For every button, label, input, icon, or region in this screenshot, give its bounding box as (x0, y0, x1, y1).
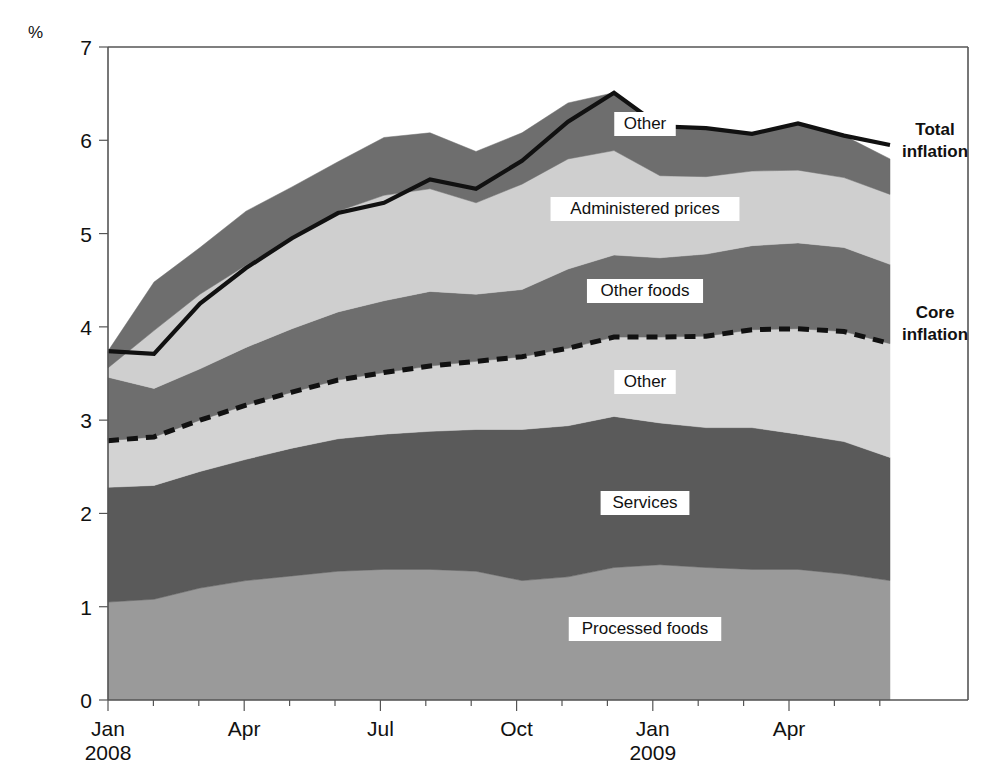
y-tick-label: 2 (80, 502, 92, 525)
inline-label-text: Administered prices (570, 199, 719, 218)
y-tick-label: 4 (80, 316, 92, 339)
inline-label-top-other: Other (614, 112, 676, 136)
y-tick-label: 7 (80, 36, 92, 59)
inline-label-processed-foods: Processed foods (569, 617, 722, 641)
inline-label-text: Other (624, 114, 667, 133)
x-axis-year-label: 2009 (629, 741, 676, 764)
inline-label-other-foods: Other foods (587, 279, 703, 303)
x-axis-month-label: Jan (636, 717, 670, 740)
inline-label-text: Processed foods (582, 619, 709, 638)
right-label-line1: Total (915, 120, 954, 139)
x-axis-month-label: Apr (773, 717, 806, 740)
right-label-line1: Core (916, 303, 955, 322)
x-axis-month-label: Apr (228, 717, 261, 740)
y-axis-unit-label: % (28, 23, 43, 42)
area-processed-foods-1 (108, 565, 890, 700)
inline-label-administered-prices: Administered prices (551, 197, 740, 221)
x-axis-month-label: Jan (91, 717, 125, 740)
x-axis-year-label: 2008 (85, 741, 132, 764)
inflation-chart: % 01234567 Jan2008AprJulOctJan2009Apr Ot… (0, 0, 994, 782)
y-tick-label: 0 (80, 689, 92, 712)
inline-label-text: Services (612, 493, 677, 512)
inline-label-services: Services (601, 491, 690, 515)
right-label-line2: inflation (902, 325, 968, 344)
right-label-line2: inflation (902, 142, 968, 161)
x-axis-month-label: Jul (367, 717, 394, 740)
inline-label-core-other: Other (614, 370, 676, 394)
x-axis-month-label: Oct (500, 717, 533, 740)
y-tick-label: 1 (80, 596, 92, 619)
chart-svg: % 01234567 Jan2008AprJulOctJan2009Apr Ot… (0, 0, 994, 782)
y-tick-label: 6 (80, 129, 92, 152)
inline-label-text: Other (624, 372, 667, 391)
y-tick-label: 3 (80, 409, 92, 432)
y-tick-label: 5 (80, 223, 92, 246)
inline-label-text: Other foods (601, 281, 690, 300)
